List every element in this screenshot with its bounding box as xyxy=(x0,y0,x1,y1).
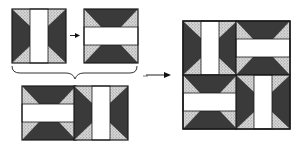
block-vertical xyxy=(12,9,66,63)
quilt-assembly-diagram xyxy=(0,0,298,149)
arrow-rotate-icon xyxy=(70,33,80,38)
final-square xyxy=(183,21,290,129)
brace-icon xyxy=(12,66,137,79)
arrow-assemble-icon xyxy=(146,72,171,78)
row-of-blocks xyxy=(22,86,128,140)
block-horizontal xyxy=(84,9,138,63)
